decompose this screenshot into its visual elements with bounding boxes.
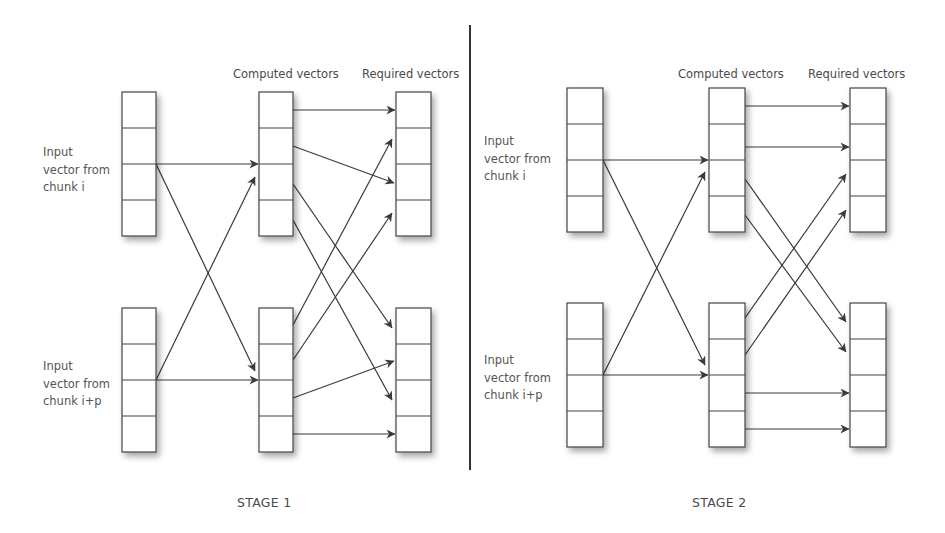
- required-vectors-header: Required vectors: [362, 67, 459, 81]
- label-line: vector from: [43, 376, 110, 394]
- stage-2-title: STAGE 2: [692, 495, 747, 510]
- input-label-chunk-i: Input vector from chunk i: [43, 144, 110, 197]
- arrow: [156, 177, 255, 380]
- label-line: Input: [43, 144, 110, 162]
- arrow: [293, 361, 394, 398]
- label-line: chunk i+p: [484, 387, 551, 405]
- computed-vectors-header: Computed vectors: [233, 67, 339, 81]
- arrow: [603, 172, 705, 375]
- arrow: [745, 174, 846, 318]
- butterfly-diagram: [0, 0, 945, 533]
- stage-1: [122, 92, 431, 452]
- label-line: vector from: [484, 370, 551, 388]
- input-label-chunk-i-plus-p: Input vector from chunk i+p: [484, 352, 551, 405]
- arrow: [293, 220, 392, 400]
- stage-1-title: STAGE 1: [237, 495, 292, 510]
- computed-vectors-header: Computed vectors: [678, 67, 784, 81]
- arrow: [293, 213, 392, 360]
- arrow: [156, 164, 255, 371]
- label-line: chunk i: [484, 168, 551, 186]
- arrow: [293, 184, 392, 328]
- stage-2: [567, 88, 886, 447]
- label-line: vector from: [43, 162, 110, 180]
- arrow: [745, 179, 846, 322]
- label-line: vector from: [484, 151, 551, 169]
- label-line: Input: [484, 133, 551, 151]
- input-label-chunk-i-plus-p: Input vector from chunk i+p: [43, 358, 110, 411]
- label-line: chunk i+p: [43, 393, 110, 411]
- input-label-chunk-i: Input vector from chunk i: [484, 133, 551, 186]
- label-line: Input: [43, 358, 110, 376]
- arrow: [603, 160, 705, 365]
- arrow: [745, 210, 846, 355]
- required-vectors-header: Required vectors: [808, 67, 905, 81]
- label-line: Input: [484, 352, 551, 370]
- label-line: chunk i: [43, 179, 110, 197]
- arrow: [293, 139, 392, 325]
